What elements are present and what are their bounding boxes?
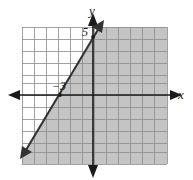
graph-figure: y x 5 −3: [0, 0, 193, 180]
x-axis-left-arrowhead: [8, 90, 20, 100]
x-axis-label: x: [178, 88, 184, 101]
coordinate-plane-svg: [0, 0, 193, 180]
y-axis-down-arrowhead: [88, 165, 98, 178]
y-intercept-point: [91, 35, 95, 39]
x-intercept-label: −3: [52, 80, 66, 92]
y-intercept-label: 5: [82, 26, 88, 38]
y-axis-label: y: [89, 4, 95, 17]
x-intercept-point: [58, 93, 62, 97]
